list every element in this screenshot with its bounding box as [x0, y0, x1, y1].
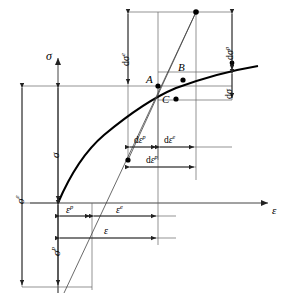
strain-axis-label: ε: [272, 205, 276, 216]
epsilon-total-label: ε: [104, 226, 108, 236]
stress-axis-label: σ: [46, 50, 52, 62]
depsilon-p-lower-label: dεp: [146, 154, 158, 166]
epsilon-e-label: εe: [116, 204, 123, 215]
lower-left-point-marker: [125, 157, 130, 162]
sigma-label: σ: [50, 153, 61, 158]
point-A-marker: [155, 83, 160, 88]
top-load-point-marker: [193, 9, 199, 15]
point-C-marker: [173, 96, 178, 101]
point-B-marker: [180, 77, 185, 82]
stress-strain-figure: σ ε A B C dσe dσp dσ σ σe σp dεp dεe dεp: [0, 0, 294, 300]
epsilon-p-label: εp: [66, 204, 73, 215]
depsilon-e-label: dεe: [164, 134, 175, 146]
depsilon-p-upper-label: dεp: [134, 134, 146, 146]
dsigma-p-label: dσp: [224, 47, 235, 60]
point-label-A: A: [146, 74, 153, 85]
point-label-B: B: [178, 62, 185, 73]
sigma-e-label: σe: [14, 195, 26, 204]
sigma-p-label: σp: [50, 247, 62, 256]
dsigma-label: dσ: [224, 89, 234, 99]
point-label-C: C: [162, 94, 169, 105]
figure-canvas: [0, 0, 294, 300]
dsigma-e-label: dσe: [120, 53, 131, 66]
